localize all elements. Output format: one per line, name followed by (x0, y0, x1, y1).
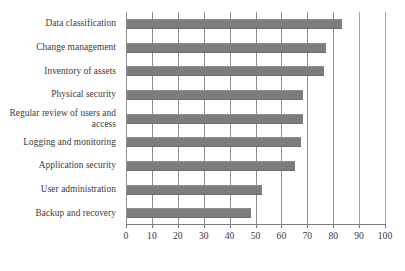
bar (127, 43, 326, 53)
category-label: Regular review of users and access (0, 108, 116, 129)
gridline-90 (359, 12, 360, 225)
x-tick-label: 70 (303, 230, 313, 242)
x-tick-label: 30 (199, 230, 209, 242)
tick-100 (385, 224, 386, 228)
value-axis-labels: 0102030405060708090100 (126, 230, 385, 246)
gridline-80 (333, 12, 334, 225)
category-label: Logging and monitoring (0, 137, 116, 148)
bar (127, 185, 262, 195)
x-tick-label: 80 (328, 230, 338, 242)
bar-chart: Data classificationChange managementInve… (0, 0, 405, 271)
category-label: Inventory of assets (0, 66, 116, 77)
category-label: Application security (0, 160, 116, 171)
category-label: User administration (0, 184, 116, 195)
bar (127, 208, 251, 218)
bar (127, 114, 303, 124)
plot-area (126, 12, 385, 225)
gridline-100 (385, 12, 386, 225)
x-tick-label: 90 (354, 230, 364, 242)
bar (127, 19, 342, 29)
x-axis-line (126, 224, 385, 225)
x-tick-label: 100 (378, 230, 392, 242)
x-tick-label: 60 (277, 230, 287, 242)
category-label: Backup and recovery (0, 208, 116, 219)
x-tick-label: 40 (225, 230, 235, 242)
x-tick-label: 10 (147, 230, 157, 242)
category-label: Change management (0, 42, 116, 53)
category-axis-labels: Data classificationChange managementInve… (0, 12, 120, 225)
bar (127, 161, 295, 171)
category-label: Data classification (0, 18, 116, 29)
bar (127, 66, 324, 76)
bar (127, 137, 301, 147)
category-label: Physical security (0, 89, 116, 100)
x-tick-label: 50 (251, 230, 261, 242)
x-tick-label: 20 (173, 230, 183, 242)
x-tick-label: 0 (124, 230, 129, 242)
bar (127, 90, 303, 100)
